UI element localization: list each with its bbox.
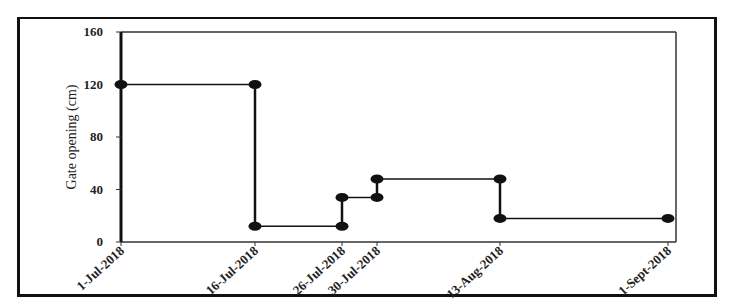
y-tick-label: 120 [84, 77, 104, 92]
data-point-marker [115, 80, 128, 89]
x-tick-label: 1-Sept-2018 [615, 243, 674, 298]
x-tick-label: 1-Jul-2018 [73, 243, 127, 294]
data-point-marker [371, 193, 384, 202]
y-axis: 04080120160 [84, 24, 122, 249]
data-point-marker [336, 222, 349, 231]
data-point-marker [662, 214, 675, 223]
y-tick-label: 40 [90, 182, 103, 197]
data-point-marker [494, 214, 507, 223]
data-point-marker [494, 175, 507, 184]
y-axis-title: Gate opening (cm) [64, 84, 80, 189]
y-tick-label: 80 [90, 129, 103, 144]
data-point-marker [371, 175, 384, 184]
data-point-marker [249, 222, 262, 231]
y-tick-label: 0 [97, 234, 104, 249]
data-series [115, 80, 675, 231]
y-tick-label: 160 [84, 24, 104, 39]
x-axis: 1-Jul-201816-Jul-201826-Jul-201830-Jul-2… [73, 242, 674, 302]
data-point-marker [249, 80, 262, 89]
plot-area [121, 32, 676, 242]
x-tick-label: 16-Jul-2018 [203, 243, 262, 298]
data-point-marker [336, 193, 349, 202]
x-tick-label: 13-Aug-2018 [443, 243, 506, 302]
gate-opening-chart: 04080120160 1-Jul-201816-Jul-201826-Jul-… [0, 0, 737, 307]
